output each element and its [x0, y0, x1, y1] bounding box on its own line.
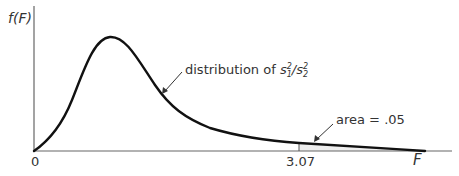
area-arrowhead [314, 135, 320, 142]
area-arrow [317, 124, 333, 139]
x-axis-label: F [413, 153, 422, 168]
distribution-annotation: distribution of s21/s22 [185, 63, 308, 76]
chart-canvas [0, 0, 459, 176]
area-annotation: area = .05 [336, 113, 405, 126]
f-distribution-figure: f(F) F 0 3.07 distribution of s21/s22 ar… [0, 0, 459, 176]
y-axis-label: f(F) [8, 11, 32, 25]
origin-tick-label: 0 [31, 155, 39, 168]
distribution-annotation-text: distribution of [185, 62, 280, 77]
critical-value-label: 3.07 [286, 155, 315, 168]
ratio-formula: s21/s22 [280, 62, 308, 77]
distribution-arrow [165, 72, 182, 91]
density-curve [34, 37, 425, 151]
